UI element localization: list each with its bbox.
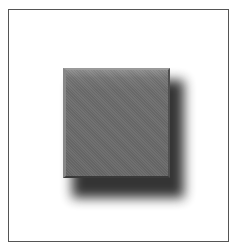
gray-square — [63, 68, 170, 178]
